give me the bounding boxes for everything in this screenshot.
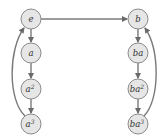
node-ba: ba xyxy=(128,43,148,63)
node-b: b xyxy=(128,9,148,29)
node-a-cubed: a3 xyxy=(21,114,41,134)
edge-a3-to-e xyxy=(12,28,25,116)
svg-text:e: e xyxy=(28,14,33,24)
node-e: e xyxy=(21,9,41,29)
svg-text:b: b xyxy=(135,14,140,24)
node-a-squared: a2 xyxy=(21,79,41,99)
node-a: a xyxy=(21,43,41,63)
node-ba-cubed: ba3 xyxy=(128,114,148,134)
svg-text:a: a xyxy=(28,48,33,58)
cayley-diagram: e a a2 a3 b ba ba2 ba3 xyxy=(0,0,164,139)
edge-ba3-to-b xyxy=(144,28,156,116)
svg-text:ba: ba xyxy=(133,48,144,58)
node-ba-squared: ba2 xyxy=(128,79,148,99)
